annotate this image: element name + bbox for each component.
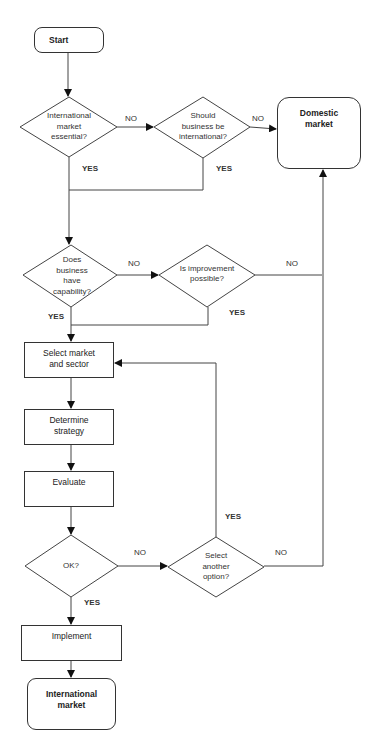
start-label: Start bbox=[49, 35, 68, 46]
another-yes-label: YES bbox=[225, 512, 241, 521]
start-node: Start bbox=[34, 27, 104, 53]
essential-no-label: NO bbox=[125, 114, 137, 123]
select-market-label: Select market and sector bbox=[39, 348, 99, 370]
decision-capability-label: Does business have capability? bbox=[50, 255, 94, 297]
decision-essential-label: International market essential? bbox=[40, 111, 98, 143]
implement-label: Implement bbox=[52, 631, 92, 642]
decision-ok-label: OK? bbox=[63, 561, 79, 572]
evaluate-node: Evaluate bbox=[24, 471, 114, 507]
select-market-node: Select market and sector bbox=[24, 342, 114, 378]
decision-improve: Is improvement possible? bbox=[175, 258, 239, 290]
domestic-market-label: Domestic market bbox=[294, 108, 344, 130]
decision-should-label: Should business be international? bbox=[174, 111, 232, 143]
essential-yes-label: YES bbox=[82, 164, 98, 173]
another-no-label: NO bbox=[275, 548, 287, 557]
ok-no-label: NO bbox=[134, 548, 146, 557]
capability-yes-label: YES bbox=[48, 312, 64, 321]
decision-another: Select another option? bbox=[192, 548, 240, 586]
evaluate-label: Evaluate bbox=[52, 477, 85, 488]
improve-no-label: NO bbox=[286, 259, 298, 268]
international-market-node: International market bbox=[27, 678, 116, 730]
decision-capability: Does business have capability? bbox=[50, 254, 94, 298]
improve-yes-label: YES bbox=[229, 308, 245, 317]
determine-strategy-label: Determine strategy bbox=[44, 415, 94, 437]
ok-yes-label: YES bbox=[84, 598, 100, 607]
decision-ok: OK? bbox=[50, 556, 92, 576]
international-market-label: International market bbox=[42, 689, 102, 711]
implement-node: Implement bbox=[21, 625, 122, 661]
should-no-label: NO bbox=[252, 114, 264, 123]
determine-strategy-node: Determine strategy bbox=[24, 409, 114, 445]
decision-essential: International market essential? bbox=[40, 108, 98, 146]
decision-should: Should business be international? bbox=[174, 108, 232, 146]
domestic-market-node: Domestic market bbox=[277, 97, 361, 169]
capability-no-label: NO bbox=[128, 259, 140, 268]
should-yes-label: YES bbox=[216, 164, 232, 173]
decision-another-label: Select another option? bbox=[192, 551, 240, 583]
decision-improve-label: Is improvement possible? bbox=[175, 264, 239, 285]
